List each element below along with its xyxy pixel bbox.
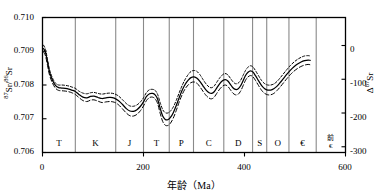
ylabel-right-sr: Sr	[365, 73, 375, 81]
period-label-1: K	[82, 139, 110, 148]
xtick-0: 0	[22, 163, 62, 172]
period-label-precambrian-bottom: €	[317, 143, 345, 151]
period-label-4: P	[167, 139, 195, 148]
ytick-left-4: 0.706	[0, 147, 34, 156]
period-gridlines	[75, 18, 316, 153]
x-axis-title: 年龄（Ma）	[134, 177, 254, 192]
period-label-2: J	[116, 139, 144, 148]
ytick-left-0: 0.710	[0, 13, 34, 22]
ytick-right-3: -300	[350, 147, 381, 156]
y-axis-left-title: 87Sr/86Sr	[4, 53, 14, 113]
ylabel-left-sup-86: 86	[2, 75, 9, 82]
ylabel-left-sup-87: 87	[2, 92, 9, 99]
ylabel-right-sup-87: 87	[363, 81, 370, 88]
period-label-3: T	[142, 139, 170, 148]
xtick-400: 400	[224, 163, 264, 172]
period-label-9: €	[289, 139, 317, 148]
ylabel-right-delta: Δ	[365, 87, 375, 93]
period-label-precambrian: 前€	[317, 135, 345, 150]
ylabel-left-srslash: Sr/	[4, 82, 14, 93]
xtick-600: 600	[325, 163, 365, 172]
period-label-5: C	[195, 139, 223, 148]
period-label-0: T	[45, 139, 73, 148]
ytick-left-3: 0.707	[0, 113, 34, 122]
curve-lower-envelope	[44, 52, 311, 126]
xtick-200: 200	[123, 163, 163, 172]
strontium-isotope-chart: 0.710 0.709 0.708 0.707 0.706 0 -100 -20…	[0, 0, 381, 196]
series-curves	[44, 45, 311, 126]
ytick-right-2: -200	[350, 113, 381, 122]
ylabel-left-sr: Sr	[4, 67, 14, 75]
y-axis-right-title: Δ87Sr	[365, 53, 375, 113]
